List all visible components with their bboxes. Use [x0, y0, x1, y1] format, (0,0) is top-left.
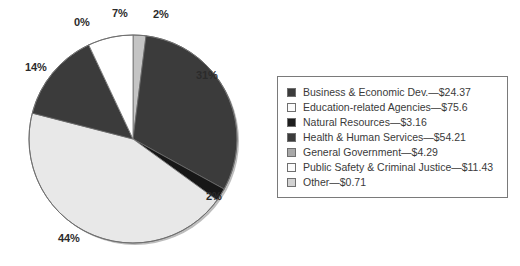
pie-chart-svg — [0, 0, 268, 266]
legend-item-label: Public Safety & Criminal Justice—$11.43 — [303, 161, 493, 173]
legend-item-label: Business & Economic Dev.—$24.37 — [303, 86, 471, 98]
legend-box: Business & Economic Dev.—$24.37 Educatio… — [277, 76, 508, 198]
legend-item-label: Other—$0.71 — [303, 176, 366, 188]
pie-label-education: 44% — [58, 232, 80, 244]
pie-chart-area: 31% 2% 44% 14% 0% 7% 2% — [0, 0, 268, 266]
legend-item-label: Natural Resources—$3.16 — [303, 116, 427, 128]
legend-item[interactable]: Health & Human Services—$54.21 — [287, 130, 498, 144]
legend-item[interactable]: Public Safety & Criminal Justice—$11.43 — [287, 160, 498, 174]
legend-item-label: General Government—$4.29 — [303, 146, 438, 158]
legend-swatch-icon — [287, 118, 296, 127]
legend-swatch-icon — [287, 133, 296, 142]
pie-label-business: 31% — [196, 69, 218, 81]
legend-item[interactable]: Other—$0.71 — [287, 175, 498, 189]
legend-item[interactable]: Education-related Agencies—$75.6 — [287, 100, 498, 114]
pie-slices-group — [29, 35, 237, 243]
pie-label-health: 14% — [25, 61, 47, 73]
legend-item[interactable]: Business & Economic Dev.—$24.37 — [287, 85, 498, 99]
legend-swatch-icon — [287, 148, 296, 157]
legend-swatch-icon — [287, 178, 296, 187]
legend-item[interactable]: General Government—$4.29 — [287, 145, 498, 159]
legend-item-label: Health & Human Services—$54.21 — [303, 131, 466, 143]
pie-label-other: 2% — [153, 8, 169, 20]
legend-item-label: Education-related Agencies—$75.6 — [303, 101, 468, 113]
legend-swatch-icon — [287, 163, 296, 172]
pie-label-public-safety: 7% — [112, 7, 128, 19]
legend-item[interactable]: Natural Resources—$3.16 — [287, 115, 498, 129]
pie-label-general-government: 0% — [74, 16, 90, 28]
legend-swatch-icon — [287, 88, 296, 97]
pie-chart-figure: 31% 2% 44% 14% 0% 7% 2% Business & Econo… — [0, 0, 520, 266]
pie-label-natural-resources: 2% — [206, 190, 222, 202]
legend-swatch-icon — [287, 103, 296, 112]
